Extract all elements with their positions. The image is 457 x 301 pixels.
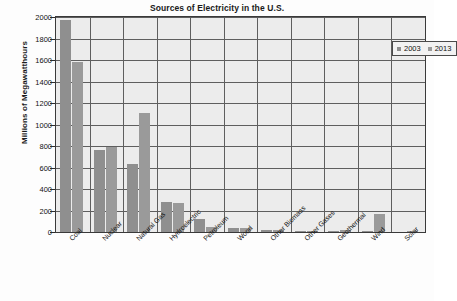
bar[interactable] xyxy=(295,231,306,232)
bar-group xyxy=(224,17,258,232)
bar-group xyxy=(56,17,90,232)
bar[interactable] xyxy=(72,62,83,232)
legend-label: 2003 xyxy=(404,44,421,53)
bar-group xyxy=(324,17,358,232)
bar-group xyxy=(257,17,291,232)
bar[interactable] xyxy=(94,150,105,232)
bar[interactable] xyxy=(127,164,138,232)
y-tick-label: 1600 xyxy=(12,56,52,65)
y-tick-label: 1400 xyxy=(12,77,52,86)
bar-group xyxy=(190,17,224,232)
bar[interactable] xyxy=(261,230,272,232)
y-tick-label: 2000 xyxy=(12,13,52,22)
legend-item[interactable]: 2013 xyxy=(428,44,452,53)
bar-group xyxy=(358,17,392,232)
y-tick-label: 1200 xyxy=(12,99,52,108)
bar[interactable] xyxy=(228,228,239,232)
y-tick-label: 600 xyxy=(12,163,52,172)
y-tick-label: 400 xyxy=(12,185,52,194)
bar-group xyxy=(123,17,157,232)
y-tick-label: 1800 xyxy=(12,34,52,43)
legend-label: 2013 xyxy=(435,44,452,53)
plot-area: 20032013 xyxy=(55,16,426,233)
bar[interactable] xyxy=(362,231,373,232)
chart-legend: 20032013 xyxy=(392,41,457,56)
y-tick-label: 800 xyxy=(12,142,52,151)
y-tick-label: 1000 xyxy=(12,120,52,129)
bar-group xyxy=(90,17,124,232)
bar[interactable] xyxy=(60,20,71,232)
chart-title: Sources of Electricity in the U.S. xyxy=(0,3,434,13)
bar[interactable] xyxy=(106,147,117,232)
legend-swatch-icon xyxy=(397,47,401,51)
bar[interactable] xyxy=(328,231,339,233)
bar[interactable] xyxy=(194,219,205,232)
bar[interactable] xyxy=(139,113,150,232)
bar-group xyxy=(291,17,325,232)
y-tick-label: 0 xyxy=(12,228,52,237)
y-tick-label: 200 xyxy=(12,206,52,215)
legend-swatch-icon xyxy=(428,47,432,51)
legend-item[interactable]: 2003 xyxy=(397,44,421,53)
bar-group xyxy=(157,17,191,232)
